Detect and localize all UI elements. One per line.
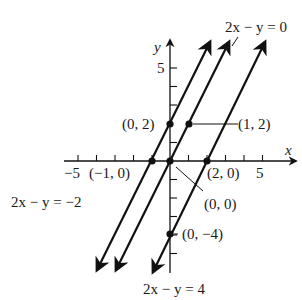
x-tick-label-minus5: −5 bbox=[64, 165, 80, 181]
equation-label-4: 2x − y = 4 bbox=[143, 281, 205, 297]
point-0-0 bbox=[166, 157, 173, 164]
label-point-0-2: (0, 2) bbox=[122, 116, 155, 133]
y-axis-label: y bbox=[152, 39, 161, 55]
graph-of-parallel-lines: x −5 5 y 5 bbox=[0, 0, 302, 300]
label-point-2-0: (2, 0) bbox=[207, 165, 240, 182]
point-minus1-0 bbox=[148, 157, 155, 164]
point-0-minus4 bbox=[166, 230, 173, 237]
label-point-minus1-0: (−1, 0) bbox=[89, 165, 130, 182]
point-1-2 bbox=[185, 120, 192, 127]
y-tick-label-5: 5 bbox=[157, 60, 165, 76]
x-tick-label-5: 5 bbox=[256, 165, 264, 181]
point-2-0 bbox=[203, 157, 210, 164]
label-point-0-minus4: (0, −4) bbox=[182, 226, 223, 243]
point-0-2 bbox=[166, 120, 173, 127]
equation-label-minus2: 2x − y = −2 bbox=[11, 194, 81, 210]
x-axis-label: x bbox=[284, 142, 292, 158]
equation-label-0: 2x − y = 0 bbox=[225, 19, 287, 35]
label-point-0-0: (0, 0) bbox=[204, 196, 237, 213]
label-point-1-2: (1, 2) bbox=[238, 116, 271, 133]
